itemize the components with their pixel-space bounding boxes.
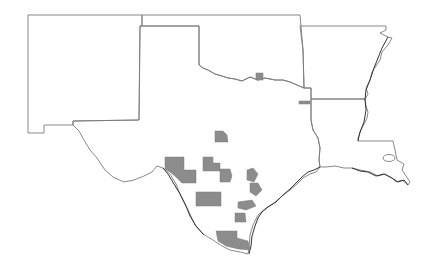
highlight-ok-red-river[interactable] (256, 73, 263, 80)
highlight-tx-central-b[interactable] (220, 169, 232, 182)
highlight-tx-lower-valley[interactable] (216, 231, 250, 250)
lake-pontchartrain (383, 155, 395, 162)
highlight-tx-coastal-bend[interactable] (250, 183, 262, 196)
state-louisiana[interactable] (311, 99, 410, 185)
highlight-tx-coastal-south[interactable] (235, 213, 246, 222)
gulf-coastline (249, 167, 320, 254)
state-arkansas[interactable] (300, 26, 392, 99)
highlight-tx-central-a[interactable] (203, 157, 220, 171)
highlight-tx-south-a[interactable] (196, 192, 221, 206)
highlight-tx-east-central[interactable] (247, 168, 258, 182)
mississippi-river (358, 37, 388, 141)
state-new-mexico[interactable] (28, 15, 142, 133)
highlight-tx-ne-border[interactable] (299, 101, 310, 104)
highlight-tx-edwards-west[interactable] (165, 157, 196, 183)
highlight-tx-coastal-gulf[interactable] (238, 200, 256, 210)
state-texas[interactable] (73, 26, 320, 254)
highlight-tx-central-north[interactable] (215, 131, 228, 142)
map (0, 0, 427, 267)
louisiana-delta (352, 168, 408, 185)
